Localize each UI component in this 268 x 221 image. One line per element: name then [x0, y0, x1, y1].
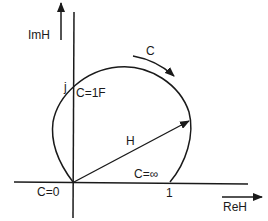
- direction-label: C: [146, 45, 155, 57]
- origin-label: C=0: [37, 186, 59, 198]
- vector-label: H: [126, 135, 135, 147]
- h-vector: [74, 121, 189, 182]
- top-intercept-value: j: [64, 81, 67, 93]
- imaginary-axis-label: ImH: [28, 29, 50, 41]
- real-axis: [14, 182, 248, 184]
- imaginary-axis: [73, 12, 74, 218]
- locus-diagram: ImH ReH j C=1F C=0 C=∞ 1 H C: [0, 0, 268, 221]
- real-intercept-value: 1: [166, 187, 173, 199]
- real-intercept-label: C=∞: [134, 168, 158, 180]
- top-intercept-label: C=1F: [76, 87, 106, 99]
- real-axis-label: ReH: [223, 201, 247, 213]
